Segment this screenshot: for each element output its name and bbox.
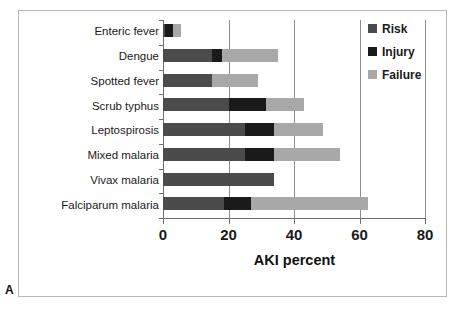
x-tick-label: 0 [143, 226, 183, 243]
bar-segment-risk[interactable] [163, 148, 245, 161]
bar-segment-failure[interactable] [266, 98, 304, 111]
category-label: Spotted fever [20, 75, 159, 87]
bar-row [163, 119, 425, 144]
legend-item-risk[interactable]: Risk [368, 22, 444, 35]
category-label: Dengue [20, 50, 159, 62]
bar-segment-failure[interactable] [274, 123, 323, 136]
chart-legend: RiskInjuryFailure [368, 22, 444, 91]
bar-segment-failure[interactable] [212, 74, 258, 87]
category-label: Falciparum malaria [20, 199, 159, 211]
bar-segment-injury[interactable] [245, 123, 274, 136]
stacked-bar[interactable] [163, 98, 304, 111]
legend-label: Failure [382, 69, 421, 81]
bar-segment-risk[interactable] [163, 98, 229, 111]
x-tick-mark [163, 219, 164, 224]
stacked-bar[interactable] [163, 123, 323, 136]
bar-row [163, 169, 425, 194]
stacked-bar[interactable] [163, 148, 340, 161]
x-tick-label: 60 [340, 226, 380, 243]
x-tick-mark [360, 219, 361, 224]
stacked-bar[interactable] [163, 197, 368, 210]
bar-segment-failure[interactable] [251, 197, 367, 210]
x-tick-label: 20 [209, 226, 249, 243]
x-tick-mark [229, 219, 230, 224]
x-tick-mark [294, 219, 295, 224]
legend-item-injury[interactable]: Injury [368, 45, 444, 58]
bar-segment-injury[interactable] [212, 49, 222, 62]
legend-label: Risk [382, 23, 407, 35]
legend-swatch-icon [368, 70, 377, 79]
panel-letter-label: A [5, 284, 14, 296]
category-label: Scrub typhus [20, 100, 159, 112]
bar-segment-injury[interactable] [245, 148, 274, 161]
bar-segment-failure[interactable] [173, 24, 181, 37]
legend-swatch-icon [368, 47, 377, 56]
bar-row [163, 193, 425, 218]
bar-segment-injury[interactable] [165, 24, 173, 37]
bar-segment-injury[interactable] [229, 98, 267, 111]
legend-swatch-icon [368, 24, 377, 33]
x-tick-label: 40 [274, 226, 314, 243]
bar-segment-failure[interactable] [222, 49, 278, 62]
x-tick-mark [425, 219, 426, 224]
bar-segment-failure[interactable] [274, 148, 340, 161]
category-label: Enteric fever [20, 25, 159, 37]
stacked-bar[interactable] [163, 49, 278, 62]
x-tick-label: 80 [405, 226, 445, 243]
category-label: Mixed malaria [20, 149, 159, 161]
category-label: Leptospirosis [20, 124, 159, 136]
x-axis-title: AKI percent [163, 252, 426, 268]
bar-segment-risk[interactable] [163, 197, 224, 210]
category-label: Vivax malaria [20, 174, 159, 186]
stacked-bar[interactable] [163, 173, 274, 186]
bar-row [163, 94, 425, 119]
legend-item-failure[interactable]: Failure [368, 68, 444, 81]
figure-panel: A Enteric feverDengueSpotted feverScrub … [0, 0, 456, 312]
bar-row [163, 144, 425, 169]
bar-segment-risk[interactable] [163, 123, 245, 136]
bar-segment-risk[interactable] [163, 74, 212, 87]
stacked-bar[interactable] [163, 74, 258, 87]
bar-segment-injury[interactable] [224, 197, 252, 210]
legend-label: Injury [382, 46, 415, 58]
bar-segment-risk[interactable] [163, 173, 274, 186]
bar-segment-risk[interactable] [163, 49, 212, 62]
stacked-bar[interactable] [163, 24, 181, 37]
